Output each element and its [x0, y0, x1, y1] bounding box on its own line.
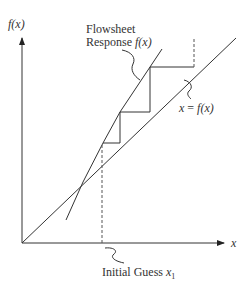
y-axis-label: f(x): [8, 17, 25, 31]
initial-guess-label: Initial Guess x1: [102, 265, 175, 281]
identity-fx: f(x): [197, 101, 214, 115]
identity-line: [22, 38, 236, 243]
initial-guess-sub: 1: [171, 272, 175, 281]
response-fx: f(x): [135, 35, 152, 49]
initial-guess-text: Initial Guess: [102, 265, 166, 279]
identity-eq: =: [184, 101, 197, 115]
initial-guess-leader: [105, 248, 124, 263]
x-axis-label: x: [230, 236, 237, 250]
fixed-point-diagram: f(x) x Flowsheet Response f(x) x = f(x) …: [0, 0, 249, 284]
flowsheet-leader: [122, 50, 140, 80]
flowsheet-label: Flowsheet: [86, 22, 136, 36]
identity-leader: [184, 80, 191, 99]
response-label: Response f(x): [86, 35, 152, 49]
identity-label: x = f(x): [178, 101, 214, 115]
flowsheet-response-curve: [66, 49, 162, 220]
response-text: Response: [86, 35, 135, 49]
